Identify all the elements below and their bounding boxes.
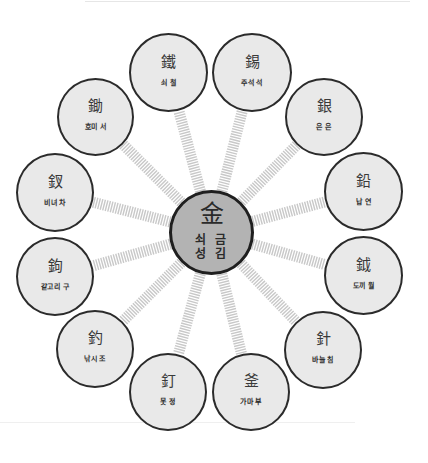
node-reading: 갈고리 구 (41, 281, 68, 291)
node-reading: 못 정 (160, 396, 175, 406)
node-reading: 납 연 (356, 196, 371, 206)
center-hanja: 金 (200, 202, 224, 226)
node-cauldron: 釜 가마 부 (212, 353, 290, 431)
center-surname: 성 김 (195, 247, 227, 261)
center-node-gold: 金 쇠 금 성 김 (169, 190, 254, 275)
node-fishing: 釣 낚시 조 (56, 310, 134, 388)
node-lead: 鉛 납 연 (324, 152, 403, 231)
node-reading: 도끼 월 (353, 280, 374, 290)
node-hanja: 釜 (244, 374, 259, 389)
node-reading: 은 은 (316, 121, 331, 131)
node-hairpin: 釵 비녀 차 (16, 153, 94, 232)
node-reading: 호미 서 (85, 121, 106, 131)
node-hanja: 釣 (88, 331, 103, 346)
node-hanja: 錫 (245, 55, 260, 70)
node-hanja: 鋤 (88, 99, 103, 114)
node-hanja: 鉞 (356, 258, 371, 273)
node-tin: 錫 주석 석 (212, 33, 292, 112)
node-hanja: 針 (316, 332, 331, 347)
node-reading: 쇠 철 (161, 77, 176, 87)
node-nail: 釘 못 정 (129, 353, 207, 431)
node-reading: 낚시 조 (84, 353, 105, 363)
node-hoe: 鋤 호미 서 (57, 78, 134, 156)
node-reading: 바늘 침 (312, 354, 333, 364)
node-hook: 鉤 갈고리 구 (16, 237, 94, 316)
node-hanja: 釘 (161, 374, 176, 389)
node-reading: 가마 부 (240, 396, 261, 406)
node-hanja: 鉤 (48, 259, 63, 274)
center-meaning: 쇠 금 (195, 233, 227, 247)
node-hanja: 釵 (48, 175, 63, 190)
center-reading: 쇠 금 성 김 (195, 234, 227, 262)
node-hanja: 鐵 (161, 55, 176, 70)
node-axe: 鉞 도끼 월 (324, 236, 403, 315)
node-reading: 비녀 차 (44, 197, 65, 207)
node-hanja: 銀 (317, 99, 332, 114)
node-hanja: 鉛 (356, 174, 371, 189)
node-reading: 주석 석 (241, 77, 262, 87)
node-iron: 鐵 쇠 철 (129, 33, 208, 112)
node-needle: 針 바늘 침 (284, 311, 362, 389)
node-silver: 銀 은 은 (285, 78, 363, 156)
